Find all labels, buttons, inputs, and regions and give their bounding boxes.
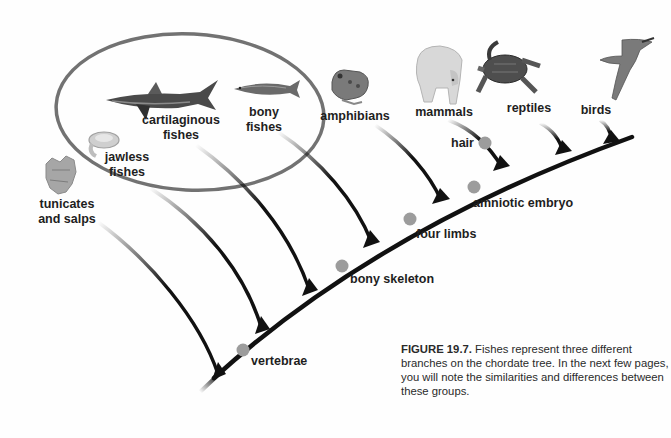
branch-amphibians	[375, 125, 441, 200]
branch-tunicates	[98, 222, 218, 374]
trait-dot-vertebrae	[237, 344, 250, 357]
trait-label-amniotic-embryo: amniotic embryo	[473, 196, 573, 211]
trait-label-four-limbs: four limbs	[416, 227, 476, 242]
taxon-label-bony: bony fishes	[246, 105, 282, 135]
figure-caption: FIGURE 19.7. Fishes represent three diff…	[401, 342, 671, 398]
frog-icon	[332, 70, 368, 104]
taxon-label-jawless: jawless fishes	[105, 150, 149, 180]
taxon-label-line: reptiles	[507, 101, 551, 116]
taxon-label-line: cartilaginous	[142, 113, 220, 128]
taxon-label-line: and salps	[38, 212, 96, 227]
trait-dot-hair	[479, 137, 492, 150]
taxon-label-line: mammals	[415, 105, 473, 120]
tunicate-icon	[46, 156, 76, 194]
taxon-label-line: fishes	[246, 120, 282, 135]
fish-icon	[234, 80, 300, 98]
taxon-label-birds: birds	[581, 103, 612, 118]
trait-dot-bony-skeleton	[336, 260, 349, 273]
taxon-label-cartilaginous: cartilaginous fishes	[142, 113, 220, 143]
trait-label-hair: hair	[451, 136, 474, 151]
taxon-label-line: fishes	[142, 128, 220, 143]
polar-bear-icon	[416, 46, 462, 104]
taxon-label-mammals: mammals	[415, 105, 473, 120]
trait-dot-four-limbs	[404, 213, 417, 226]
taxon-label-line: amphibians	[320, 109, 389, 124]
taxon-label-tunicates: tunicates and salps	[38, 197, 96, 227]
taxon-label-amphibians: amphibians	[320, 109, 389, 124]
taxon-label-line: jawless	[105, 150, 149, 165]
taxon-label-line: birds	[581, 103, 612, 118]
figure-number: FIGURE 19.7.	[401, 343, 472, 355]
branch-bony	[278, 132, 372, 243]
branch-jawless	[150, 188, 262, 330]
cladogram-figure: tunicates and salps jawless fishes carti…	[0, 0, 671, 438]
taxon-label-line: bony	[246, 105, 282, 120]
bird-icon	[600, 38, 654, 100]
taxon-label-line: tunicates	[38, 197, 96, 212]
trait-label-bony-skeleton: bony skeleton	[350, 272, 434, 287]
taxon-label-reptiles: reptiles	[507, 101, 551, 116]
trait-label-vertebrae: vertebrae	[251, 354, 307, 369]
taxon-label-line: fishes	[105, 165, 149, 180]
turtle-icon	[478, 42, 540, 92]
fishes-highlight-ellipse	[52, 27, 328, 197]
trait-dot-amniotic-embryo	[468, 181, 481, 194]
